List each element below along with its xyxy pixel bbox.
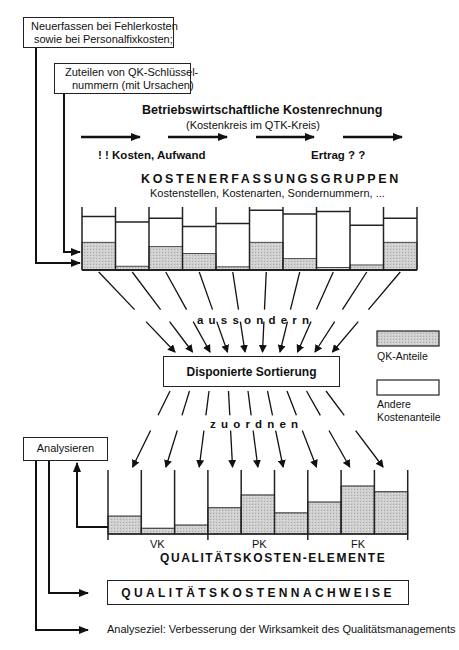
ertrag-label: Ertrag ? ? xyxy=(311,149,365,161)
header-title: Betriebswirtschaftliche Kostenrechnung xyxy=(142,103,382,117)
legend-other-swatch xyxy=(377,380,439,395)
legend-qk-swatch xyxy=(377,331,439,346)
neuerfassen-line1: Neuerfassen bei Fehlerkosten xyxy=(31,20,178,32)
top-bin xyxy=(283,214,317,270)
analyseziel-text: Analyseziel: Verbesserung der Wirksamkei… xyxy=(107,623,456,635)
zuteilen-line2: nummern (mit Ursachen) xyxy=(72,79,194,91)
top-bin xyxy=(82,216,116,270)
bottom-bin xyxy=(175,525,208,534)
bottom-bin xyxy=(374,492,407,534)
legend-qk-label: QK-Anteile xyxy=(377,350,428,362)
top-bin xyxy=(216,223,250,270)
groups-title: KOSTENERFASSUNGSGRUPPEN xyxy=(141,172,401,186)
top-bin xyxy=(149,218,183,270)
nachweise-box: QUALITÄTSKOSTENNACHWEISE xyxy=(107,580,409,605)
bottom-bin xyxy=(208,508,241,534)
bottom-bin xyxy=(308,502,341,534)
neuerfassen-line2: sowie bei Personalfixkosten; xyxy=(34,33,173,45)
top-bin xyxy=(250,210,284,270)
groups-subtitle: Kostenstellen, Kostenarten, Sondernummer… xyxy=(150,187,385,199)
bottom-bin xyxy=(241,495,274,534)
legend-other-line2: Kostenanteile xyxy=(377,411,441,423)
top-bin xyxy=(317,211,351,270)
zuteilen-box: Zuteilen von QK-Schlüssel- nummern (mit … xyxy=(54,63,191,94)
top-bin xyxy=(384,218,418,270)
neuerfassen-box: Neuerfassen bei Fehlerkosten sowie bei P… xyxy=(23,17,174,48)
sorting-box: Disponierte Sortierung xyxy=(163,356,340,387)
aussondern-lines xyxy=(99,272,401,352)
legend-other-line1: Andere xyxy=(377,398,411,410)
aussondern-label: a u s s o n d e r n xyxy=(197,314,310,326)
analysieren-connectors xyxy=(36,460,108,630)
bottom-bins xyxy=(108,470,408,540)
top-bins xyxy=(82,207,417,270)
bottom-bin xyxy=(141,528,174,534)
kosten-aufwand-label: ! ! Kosten, Aufwand xyxy=(98,149,206,161)
zuteilen-line1: Zuteilen von QK-Schlüssel- xyxy=(65,66,198,78)
header-subtitle: (Kostenkreis im QTK-Kreis) xyxy=(186,119,320,131)
group-label-fk: FK xyxy=(351,538,365,550)
top-bin xyxy=(116,222,150,270)
sorting-box-label: Disponierte Sortierung xyxy=(164,365,339,379)
group-label-pk: PK xyxy=(252,538,267,550)
bottom-bin xyxy=(341,486,374,534)
bottom-bin xyxy=(108,516,141,534)
nachweise-label: QUALITÄTSKOSTENNACHWEISE xyxy=(108,586,408,600)
analysieren-box: Analysieren xyxy=(23,437,108,461)
elements-title: QUALITÄTSKOSTEN-ELEMENTE xyxy=(160,551,386,565)
zuordnen-label: z u o r d n e n xyxy=(210,418,299,430)
top-bin xyxy=(350,225,384,270)
group-label-vk: VK xyxy=(150,538,165,550)
analysieren-label: Analysieren xyxy=(24,442,107,454)
bottom-bin xyxy=(275,513,308,534)
top-bin xyxy=(183,227,217,270)
